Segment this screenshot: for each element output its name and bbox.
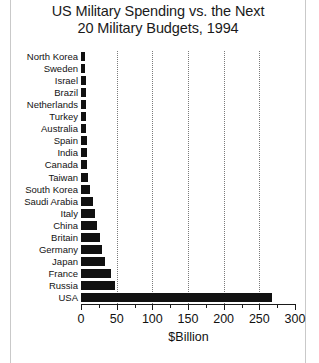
y-axis-label-canada: Canada xyxy=(0,160,78,170)
y-axis-category-labels: North KoreaSwedenIsraelBrazilNetherlands… xyxy=(0,51,78,304)
bar-north-korea xyxy=(81,52,85,61)
chart-title-line-2: 20 Military Budgets, 1994 xyxy=(12,20,304,37)
bar-brazil xyxy=(81,88,86,97)
y-axis-label-brazil: Brazil xyxy=(0,88,78,98)
y-axis-label-sweden: Sweden xyxy=(0,64,78,74)
bar-usa xyxy=(81,293,272,302)
x-minor-tick-175 xyxy=(206,305,207,308)
bar-row xyxy=(81,268,295,280)
bar-netherlands xyxy=(81,100,86,109)
y-axis-label-israel: Israel xyxy=(0,76,78,86)
bar-row xyxy=(81,292,295,304)
bar-japan xyxy=(81,257,105,266)
bar-row xyxy=(81,99,295,111)
bar-italy xyxy=(81,209,95,218)
bar-row xyxy=(81,87,295,99)
x-minor-tick-25 xyxy=(99,305,100,308)
chart-figure: US Military Spending vs. the Next 20 Mil… xyxy=(0,0,319,363)
bar-turkey xyxy=(81,112,86,121)
x-tick-label-50: 50 xyxy=(97,312,137,326)
bar-row xyxy=(81,244,295,256)
y-axis-label-italy: Italy xyxy=(0,209,78,219)
x-minor-tick-75 xyxy=(135,305,136,308)
bar-spain xyxy=(81,136,87,145)
x-minor-tick-275 xyxy=(277,305,278,308)
x-tick-label-200: 200 xyxy=(204,312,244,326)
y-axis-label-germany: Germany xyxy=(0,245,78,255)
bar-row xyxy=(81,111,295,123)
y-axis-label-taiwan: Taiwan xyxy=(0,173,78,183)
x-tick-50 xyxy=(117,305,118,310)
bar-india xyxy=(81,148,87,157)
x-tick-label-250: 250 xyxy=(239,312,279,326)
x-minor-tick-225 xyxy=(242,305,243,308)
bar-row xyxy=(81,256,295,268)
bar-sweden xyxy=(81,64,85,73)
bar-row xyxy=(81,172,295,184)
plot-area xyxy=(81,51,295,304)
y-axis-label-south-korea: South Korea xyxy=(0,185,78,195)
x-axis-title: $Billion xyxy=(81,330,296,344)
x-tick-label-300: 300 xyxy=(275,312,315,326)
bar-australia xyxy=(81,124,86,133)
bar-russia xyxy=(81,281,115,290)
chart-title-line-1: US Military Spending vs. the Next xyxy=(12,3,304,20)
bar-row xyxy=(81,147,295,159)
bar-row xyxy=(81,75,295,87)
y-axis-label-usa: USA xyxy=(0,293,78,303)
y-axis-label-russia: Russia xyxy=(0,281,78,291)
bar-row xyxy=(81,159,295,171)
bar-china xyxy=(81,221,97,230)
y-axis-label-saudi-arabia: Saudi Arabia xyxy=(0,197,78,207)
bar-britain xyxy=(81,233,100,242)
y-axis-label-japan: Japan xyxy=(0,257,78,267)
page-frame-right-edge xyxy=(305,0,306,363)
bar-israel xyxy=(81,76,86,85)
y-axis-label-india: India xyxy=(0,148,78,158)
bar-row xyxy=(81,196,295,208)
x-tick-label-0: 0 xyxy=(61,312,101,326)
x-tick-200 xyxy=(224,305,225,310)
bar-canada xyxy=(81,160,87,169)
bar-row xyxy=(81,135,295,147)
bar-row xyxy=(81,220,295,232)
x-minor-tick-125 xyxy=(170,305,171,308)
y-axis-label-france: France xyxy=(0,269,78,279)
bar-row xyxy=(81,123,295,135)
x-tick-100 xyxy=(152,305,153,310)
x-tick-label-150: 150 xyxy=(168,312,208,326)
bar-row xyxy=(81,208,295,220)
x-tick-300 xyxy=(295,305,296,310)
y-axis-label-turkey: Turkey xyxy=(0,112,78,122)
bar-taiwan xyxy=(81,173,88,182)
y-axis-label-spain: Spain xyxy=(0,136,78,146)
y-axis-label-north-korea: North Korea xyxy=(0,52,78,62)
y-axis-label-china: China xyxy=(0,221,78,231)
bar-france xyxy=(81,269,111,278)
y-axis-label-netherlands: Netherlands xyxy=(0,100,78,110)
x-tick-label-100: 100 xyxy=(132,312,172,326)
chart-title: US Military Spending vs. the Next 20 Mil… xyxy=(12,3,304,37)
y-axis-label-australia: Australia xyxy=(0,124,78,134)
bar-row xyxy=(81,232,295,244)
bar-saudi-arabia xyxy=(81,197,93,206)
x-tick-150 xyxy=(188,305,189,310)
bar-row xyxy=(81,184,295,196)
bar-row xyxy=(81,51,295,63)
bar-south-korea xyxy=(81,185,90,194)
x-tick-0 xyxy=(81,305,82,310)
bar-row xyxy=(81,63,295,75)
y-axis-label-britain: Britain xyxy=(0,233,78,243)
x-tick-250 xyxy=(259,305,260,310)
bar-germany xyxy=(81,245,102,254)
bar-row xyxy=(81,280,295,292)
